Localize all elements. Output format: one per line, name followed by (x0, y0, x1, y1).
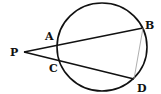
label-c: C (49, 62, 58, 75)
label-d: D (137, 82, 147, 94)
secant-diagram: P A C B D (0, 0, 161, 94)
label-p: P (10, 46, 18, 59)
chord-bd (134, 28, 143, 79)
circle (57, 3, 147, 91)
secant-pd (24, 52, 134, 79)
secant-pb (24, 28, 143, 52)
label-b: B (145, 19, 154, 32)
label-a: A (44, 30, 54, 43)
